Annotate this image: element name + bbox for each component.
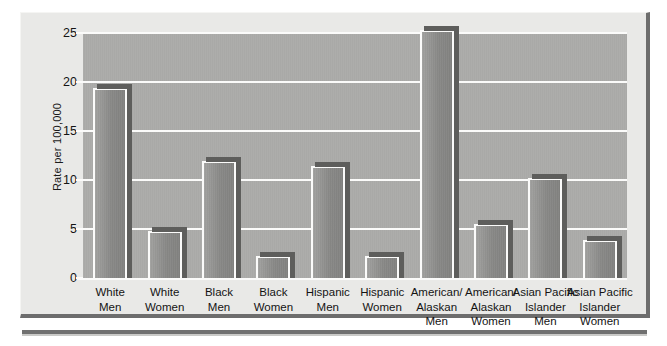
x-axis-category-label-line: Asian Pacific [561, 285, 639, 300]
footer-rule-highlight [22, 334, 647, 336]
y-axis-tick-mark [76, 32, 83, 34]
bar [474, 224, 508, 278]
y-axis-tick-mark [76, 179, 83, 181]
y-axis-tick-mark [76, 81, 83, 83]
y-axis-tick-label: 10 [43, 173, 77, 187]
bar [365, 256, 399, 278]
bar [528, 178, 562, 278]
chart-figure: Rate per 100,000 0510152025 WhiteMenWhit… [0, 0, 667, 346]
y-axis-tick-mark [76, 130, 83, 132]
x-axis-line [77, 278, 627, 280]
bar [311, 166, 345, 278]
bar [420, 30, 454, 278]
bar [93, 88, 127, 278]
y-axis-tick-label: 20 [43, 75, 77, 89]
bar [256, 256, 290, 278]
gridline [83, 32, 627, 34]
y-axis-tick-mark [76, 277, 83, 279]
bar [583, 240, 617, 278]
y-axis-tick-label: 15 [43, 124, 77, 138]
bar [148, 231, 182, 278]
y-axis-tick-mark [76, 228, 83, 230]
plot-area [83, 33, 627, 278]
y-axis-tick-label: 5 [43, 222, 77, 236]
gridline [83, 81, 627, 83]
y-axis-tick-label: 0 [43, 271, 77, 285]
x-axis-category-label: Asian PacificIslanderWomen [561, 285, 639, 329]
gridline [83, 130, 627, 132]
y-axis-tick-labels: 0510152025 [35, 13, 77, 314]
x-axis-category-label-line: Islander [561, 300, 639, 315]
bar [202, 161, 236, 278]
y-axis-tick-label: 25 [43, 26, 77, 40]
x-axis-category-label-line: Women [561, 314, 639, 329]
chart-panel: Rate per 100,000 0510152025 WhiteMenWhit… [20, 12, 650, 318]
